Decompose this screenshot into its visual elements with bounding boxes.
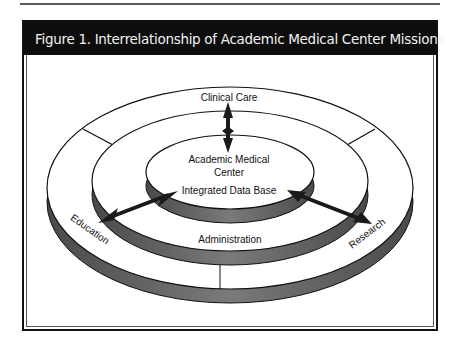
inner-disc [146,135,314,223]
label-academic-medical: Academic Medical [188,154,269,165]
concentric-rings-diagram: Clinical Care Academic Medical Center In… [0,0,458,345]
label-integrated-data-base: Integrated Data Base [182,185,277,196]
label-clinical-care: Clinical Care [201,92,258,103]
label-center: Center [214,167,245,178]
label-administration: Administration [198,234,261,245]
